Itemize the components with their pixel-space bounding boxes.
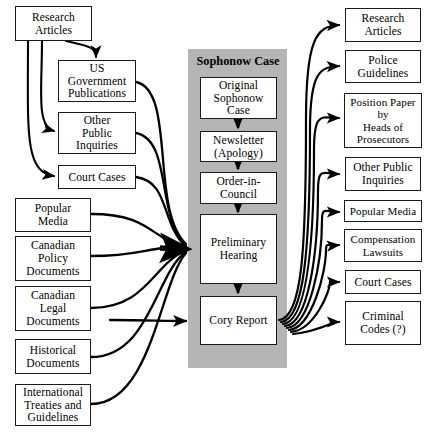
node-pr-newsletter-apology[interactable]: Newsletter (Apology) [200,131,277,162]
line-1: Police [366,54,399,67]
line-1: Canadian [29,289,77,302]
node-out-research-articles[interactable]: Research Articles [345,8,421,42]
line-2: Treaties and [22,399,83,412]
line-3: Guidelines [26,411,81,424]
line-1: International [21,386,85,399]
line-1: Other [82,114,113,127]
line-3: Heads of [361,121,405,133]
node-in-other-public-inquiries[interactable]: Other Public Inquiries [58,112,136,154]
node-in-us-gov-pubs[interactable]: US Government Publications [58,60,136,102]
line-3: Inquiries [74,139,120,152]
line-3: Documents [24,265,81,278]
sophonow-case-panel-title: Sophonow Case [188,54,288,69]
line-4: Prosecutors [355,133,411,145]
line-2: Hearing [218,249,260,262]
line-1: Original [217,79,260,92]
line-2: (Apology) [212,147,265,160]
node-out-police-guidelines[interactable]: Police Guidelines [345,50,421,83]
line-2: Government [66,75,128,88]
line-2: Codes (?) [358,323,407,336]
line-1: Popular [33,202,73,215]
line-1: Preliminary [209,236,268,249]
node-out-popular-media[interactable]: Popular Media [344,200,422,222]
line-2: Articles [362,25,403,38]
line-3: Case [225,104,252,117]
line-1: Other Public [351,161,415,174]
line-1: Criminal [360,310,406,323]
line-2: Inquiries [360,174,406,187]
node-in-historical-documents[interactable]: Historical Documents [15,339,91,374]
line-1: Order-in- [214,175,262,188]
line-2: Policy [36,252,70,265]
line-2: Documents [24,357,81,370]
line-2: Guidelines [356,67,411,80]
line-1: Research [360,12,407,25]
line-2: Lawsuits [361,246,406,258]
line-2: Media [36,215,70,228]
line-1: Canadian [29,239,77,252]
node-pr-order-in-council[interactable]: Order-in- Council [200,172,277,204]
node-pr-original-sophonow-case[interactable]: Original Sophonow Case [200,77,277,119]
line-1: Cory Report [207,314,269,327]
line-1: Research [30,11,77,24]
node-in-research-articles-line2: Research Articles [15,6,92,41]
node-out-other-public-inquiries[interactable]: Other Public Inquiries [345,157,421,191]
node-out-compensation-lawsuits[interactable]: Compensation Lawsuits [344,229,422,262]
node-in-canadian-policy-documents[interactable]: Canadian Policy Documents [15,236,91,281]
line-1: Court Cases [353,276,414,289]
line-1: Historical [28,344,78,357]
node-pr-preliminary-hearing[interactable]: Preliminary Hearing [200,214,277,284]
line-2: Council [218,188,259,201]
node-out-criminal-codes[interactable]: Criminal Codes (?) [345,301,421,345]
node-in-court-cases[interactable]: Court Cases [58,165,136,189]
node-in-popular-media[interactable]: Popular Media [15,198,91,232]
line-1: Popular Media [348,205,418,217]
node-in-international-treaties[interactable]: International Treaties and Guidelines [15,384,91,426]
diagram-canvas: Sophonow Case [0,0,427,433]
line-2: Legal [38,302,69,315]
line-1: Position Paper [348,96,417,108]
line-1: Compensation [349,233,418,245]
line-2: Sophonow [211,92,265,105]
node-out-position-paper[interactable]: Position Paper by Heads of Prosecutors [344,93,422,148]
node-out-court-cases[interactable]: Court Cases [345,270,421,294]
node-in-canadian-legal-documents[interactable]: Canadian Legal Documents [15,286,91,331]
line-2: by [375,108,390,120]
line-1: Newsletter [211,134,266,147]
line-2: Articles [33,24,74,37]
line-2: Public [80,127,114,140]
line-1: US [88,62,107,75]
line-3: Documents [24,315,81,328]
line-3: Publications [66,87,128,100]
line-1: Court Cases [67,171,128,184]
node-pr-cory-report[interactable]: Cory Report [200,296,277,345]
